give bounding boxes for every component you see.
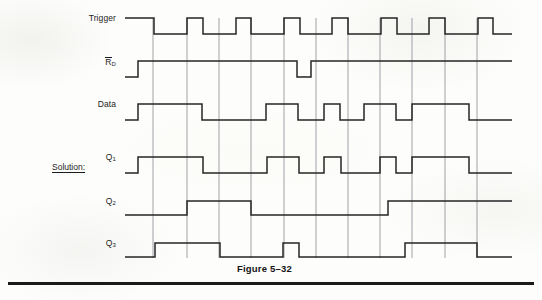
waveform-label-subscript-rd: D [112, 61, 116, 67]
waveform-label-rd: RD [105, 57, 116, 67]
waveform-label-text-q2: Q [106, 196, 113, 206]
waveform-label-text-data: Data [98, 99, 116, 109]
waveform-trigger [125, 18, 512, 34]
waveform-data [125, 104, 512, 120]
waveform-label-text-q1: Q [106, 152, 113, 162]
solution-label: Solution: [52, 162, 85, 172]
waveform-label-q1: Q1 [106, 153, 116, 162]
waveform-label-q2: Q2 [106, 197, 116, 206]
gridlines [153, 18, 477, 258]
waveform-rd [125, 61, 512, 77]
waveform-label-q3: Q3 [106, 239, 116, 248]
waveform-label-subscript-q2: 2 [113, 200, 116, 206]
waveform-q3 [125, 243, 512, 257]
waveform-label-data: Data [98, 100, 116, 109]
figure-caption: Figure 5–32 [237, 263, 292, 274]
waveform-q2 [125, 201, 512, 215]
waveform-label-text-trigger: Trigger [89, 13, 116, 23]
waveform-traces [125, 18, 512, 257]
waveform-label-trigger: Trigger [89, 14, 116, 23]
waveform-label-text-q3: Q [106, 238, 113, 248]
waveform-label-subscript-q3: 3 [113, 242, 116, 248]
timing-diagram [0, 0, 542, 300]
bottom-rule [8, 282, 534, 285]
figure-page: TriggerRDDataQ1Q2Q3 Solution: Figure 5–3… [0, 0, 542, 300]
waveform-label-subscript-q1: 1 [113, 156, 116, 162]
waveform-q1 [125, 157, 512, 173]
